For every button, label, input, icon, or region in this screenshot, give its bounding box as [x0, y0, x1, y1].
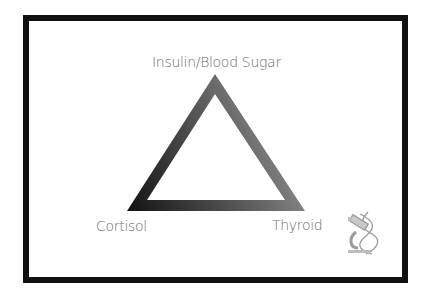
microscope-dna-icon [348, 212, 378, 254]
triangle-shape [127, 74, 305, 211]
vertex-label-bottom-left: Cortisol [96, 218, 147, 234]
vertex-label-bottom-right: Thyroid [272, 217, 322, 233]
triangle-diagram [0, 0, 429, 296]
vertex-label-top: Insulin/Blood Sugar [152, 54, 281, 70]
